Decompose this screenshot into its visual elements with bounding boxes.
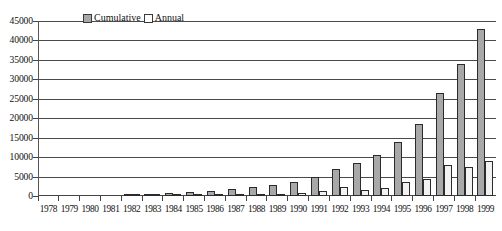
x-tick-label: 1985 <box>184 202 205 218</box>
bar-group <box>100 21 121 196</box>
x-tick-label: 1994 <box>371 202 392 218</box>
x-tick-label: 1984 <box>163 202 184 218</box>
x-tick-label: 1997 <box>433 202 454 218</box>
x-tick-mark <box>184 196 205 201</box>
bar-group <box>288 21 309 196</box>
x-tick-mark <box>163 196 184 201</box>
bar-group <box>309 21 330 196</box>
bar-group <box>392 21 413 196</box>
bar-group <box>142 21 163 196</box>
legend-item-cumulative: Cumulative <box>83 12 141 24</box>
bar-group <box>350 21 371 196</box>
x-tick-label: 1998 <box>454 202 475 218</box>
x-axis-ticks <box>38 196 496 201</box>
x-tick-mark <box>329 196 350 201</box>
bar-cumulative <box>290 182 298 196</box>
bar-group <box>413 21 434 196</box>
bar-annual <box>485 161 493 196</box>
x-tick-label: 1983 <box>142 202 163 218</box>
x-tick-label: 1987 <box>225 202 246 218</box>
y-tick-label: 25000 <box>0 94 33 104</box>
x-tick-mark <box>59 196 80 201</box>
x-tick-label: 1980 <box>80 202 101 218</box>
y-tick-label: 10000 <box>0 152 33 162</box>
x-tick-label: 1979 <box>59 202 80 218</box>
y-tick-label: 5000 <box>0 172 33 182</box>
bar-group <box>475 21 496 196</box>
x-tick-label: 1986 <box>205 202 226 218</box>
bar-group <box>163 21 184 196</box>
bar-cumulative <box>373 155 381 196</box>
x-tick-label: 1981 <box>100 202 121 218</box>
bar-group <box>454 21 475 196</box>
y-tick-label: 15000 <box>0 133 33 143</box>
bar-cumulative <box>436 93 444 196</box>
bar-group <box>121 21 142 196</box>
x-tick-label: 1978 <box>38 202 59 218</box>
y-tick-label: 45000 <box>0 16 33 26</box>
x-tick-mark <box>309 196 330 201</box>
x-tick-mark <box>433 196 454 201</box>
bar-annual <box>381 188 389 196</box>
x-tick-mark <box>350 196 371 201</box>
legend-label: Cumulative <box>94 12 141 24</box>
x-tick-mark <box>38 196 59 201</box>
x-tick-label: 1982 <box>121 202 142 218</box>
bar-annual <box>465 167 473 196</box>
bar-cumulative <box>457 64 465 196</box>
legend-swatch-icon <box>83 14 92 23</box>
y-tick-label: 20000 <box>0 113 33 123</box>
bar-cumulative <box>353 163 361 196</box>
x-tick-mark <box>80 196 101 201</box>
bar-group <box>225 21 246 196</box>
x-tick-mark <box>121 196 142 201</box>
bar-group <box>59 21 80 196</box>
bar-cumulative <box>332 169 340 196</box>
bar-group <box>205 21 226 196</box>
bar-cumulative <box>394 142 402 196</box>
bar-group <box>267 21 288 196</box>
bar-group <box>246 21 267 196</box>
x-tick-mark <box>413 196 434 201</box>
bar-group <box>371 21 392 196</box>
x-tick-mark <box>225 196 246 201</box>
x-tick-mark <box>288 196 309 201</box>
y-tick-label: 0 <box>0 191 33 201</box>
bar-cumulative <box>311 177 319 196</box>
bar-annual <box>423 179 431 197</box>
bar-cumulative <box>228 189 236 196</box>
x-tick-label: 1999 <box>475 202 496 218</box>
y-tick-label: 40000 <box>0 35 33 45</box>
y-tick-label: 30000 <box>0 74 33 84</box>
bar-annual <box>402 182 410 196</box>
x-tick-mark <box>392 196 413 201</box>
x-tick-mark <box>267 196 288 201</box>
x-tick-label: 1995 <box>392 202 413 218</box>
x-tick-label: 1996 <box>413 202 434 218</box>
legend-item-annual: Annual <box>144 12 184 24</box>
bar-cumulative <box>269 185 277 196</box>
legend-swatch-icon <box>144 14 153 23</box>
x-axis-labels: 1978197919801981198219831984198519861987… <box>38 202 496 218</box>
x-tick-mark <box>100 196 121 201</box>
x-tick-mark <box>454 196 475 201</box>
legend-label: Annual <box>155 12 184 24</box>
x-tick-label: 1989 <box>267 202 288 218</box>
chart-legend: CumulativeAnnual <box>83 12 184 24</box>
bar-chart: 4500040000350003000025000200001500010000… <box>0 0 502 231</box>
x-tick-mark <box>205 196 226 201</box>
x-tick-label: 1993 <box>350 202 371 218</box>
bar-group <box>433 21 454 196</box>
bar-group <box>329 21 350 196</box>
x-tick-mark <box>475 196 496 201</box>
bar-group <box>184 21 205 196</box>
bar-annual <box>340 187 348 196</box>
bar-annual <box>444 165 452 196</box>
bar-cumulative <box>415 124 423 196</box>
x-tick-label: 1992 <box>329 202 350 218</box>
y-tick-label: 35000 <box>0 55 33 65</box>
x-tick-label: 1990 <box>288 202 309 218</box>
bar-groups <box>38 21 496 196</box>
x-tick-mark <box>371 196 392 201</box>
x-tick-mark <box>142 196 163 201</box>
